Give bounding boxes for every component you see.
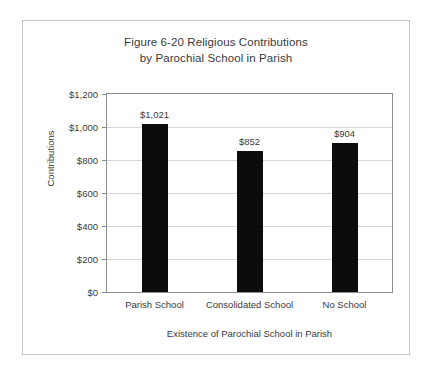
y-axis-tick-mark — [102, 94, 106, 95]
y-axis-tick-mark — [102, 259, 106, 260]
chart-title-line-2: by Parochial School in Parish — [23, 50, 409, 66]
bar-group: $904No School — [107, 94, 392, 292]
y-axis-tick-label: $600 — [77, 188, 98, 199]
x-axis-category-label: No School — [323, 299, 367, 310]
plot-area: $0$200$400$600$800$1,000$1,200 $1,021Par… — [106, 93, 393, 293]
y-axis-title: Contributions — [45, 99, 56, 219]
bar-value-label: $904 — [334, 128, 355, 139]
x-axis-title: Existence of Parochial School in Parish — [106, 328, 393, 339]
y-axis-tick-mark — [102, 127, 106, 128]
y-axis-tick-label: $1,000 — [69, 122, 98, 133]
figure-frame: Figure 6-20 Religious Contributions by P… — [22, 20, 410, 355]
y-axis-tick-label: $200 — [77, 254, 98, 265]
y-axis-tick-mark — [102, 160, 106, 161]
y-axis-tick-label: $0 — [87, 287, 98, 298]
y-axis-tick-label: $1,200 — [69, 89, 98, 100]
y-axis-tick-mark — [102, 193, 106, 194]
x-axis-category-label: Parish School — [125, 299, 184, 310]
y-axis-tick-label: $800 — [77, 155, 98, 166]
y-axis-tick-mark — [102, 226, 106, 227]
y-axis-tick-label: $400 — [77, 221, 98, 232]
chart-title: Figure 6-20 Religious Contributions by P… — [23, 34, 409, 66]
bar: $904 — [332, 143, 358, 292]
x-axis-category-label: Consolidated School — [206, 299, 293, 310]
y-axis-tick-mark — [102, 292, 106, 293]
chart-title-line-1: Figure 6-20 Religious Contributions — [23, 34, 409, 50]
